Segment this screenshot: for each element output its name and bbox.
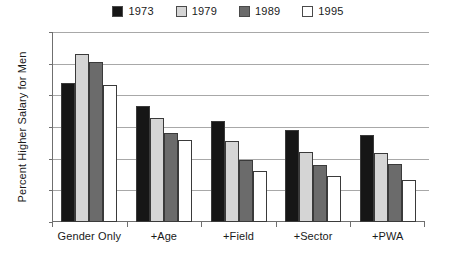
bar[interactable] (61, 83, 75, 222)
bar[interactable] (360, 135, 374, 222)
y-tick-mark-right (425, 95, 429, 96)
legend-entry[interactable]: 1995 (302, 6, 343, 17)
bar[interactable] (211, 121, 225, 222)
legend-label: 1995 (318, 6, 343, 17)
legend-swatch-icon (112, 6, 123, 17)
bar[interactable] (374, 153, 388, 222)
x-tick-mark (52, 222, 53, 227)
bar-group (211, 32, 267, 222)
x-tick-mark (127, 222, 128, 227)
y-tick-mark-right (425, 159, 429, 160)
bar[interactable] (89, 62, 103, 222)
bar[interactable] (75, 54, 89, 222)
bar[interactable] (225, 141, 239, 222)
x-category-label: +Sector (276, 230, 351, 242)
legend-entry[interactable]: 1979 (176, 6, 217, 17)
x-tick-mark (276, 222, 277, 227)
y-tick-mark-right (425, 64, 429, 65)
x-category-label: +PWA (350, 230, 425, 242)
y-tick-mark-right (425, 127, 429, 128)
bar[interactable] (313, 165, 327, 222)
bar-group (285, 32, 341, 222)
legend-swatch-icon (239, 6, 250, 17)
bar[interactable] (402, 180, 416, 222)
x-tick-mark (424, 222, 425, 227)
bar-group (360, 32, 416, 222)
bar[interactable] (150, 118, 164, 222)
bar[interactable] (253, 171, 267, 222)
bar[interactable] (299, 152, 313, 222)
legend-swatch-icon (176, 6, 187, 17)
y-tick-mark-right (425, 190, 429, 191)
x-tick-mark (350, 222, 351, 227)
x-category-label: Gender Only (52, 230, 127, 242)
legend-entry[interactable]: 1973 (112, 6, 153, 17)
bar[interactable] (327, 176, 341, 222)
bar[interactable] (103, 85, 117, 222)
bar[interactable] (178, 140, 192, 222)
y-axis-title: Percent Higher Salary for Men (14, 32, 30, 222)
x-tick-mark (201, 222, 202, 227)
y-tick-mark-right (425, 32, 429, 33)
legend-label: 1973 (128, 6, 153, 17)
bar[interactable] (164, 133, 178, 222)
x-axis: Gender Only+Age+Field+Sector+PWA (52, 222, 425, 252)
legend-label: 1979 (192, 6, 217, 17)
chart-figure: 1973197919891995 Percent Higher Salary f… (0, 0, 456, 256)
bar-group (61, 32, 117, 222)
legend-entry[interactable]: 1989 (239, 6, 280, 17)
chart-legend: 1973197919891995 (0, 6, 456, 17)
legend-swatch-icon (302, 6, 313, 17)
legend-label: 1989 (255, 6, 280, 17)
x-category-label: +Age (127, 230, 202, 242)
bar[interactable] (388, 164, 402, 222)
bars-layer (52, 32, 425, 222)
bar-group (136, 32, 192, 222)
x-category-label: +Field (201, 230, 276, 242)
bar[interactable] (136, 106, 150, 222)
bar[interactable] (239, 160, 253, 222)
bar[interactable] (285, 130, 299, 222)
